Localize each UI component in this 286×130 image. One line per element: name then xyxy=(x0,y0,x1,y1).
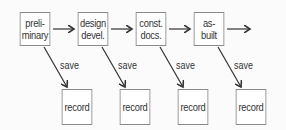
save-label-4: save xyxy=(234,59,253,71)
stage-label-line1: const. xyxy=(139,17,162,29)
stage-label-line2: minary xyxy=(22,29,49,41)
save-label-2: save xyxy=(118,59,137,71)
stage-label-line2: devel. xyxy=(80,29,106,41)
stage-label-line2: docs. xyxy=(139,29,162,41)
stage-label-line1: design xyxy=(80,17,106,29)
record-box-1: record xyxy=(62,89,93,125)
stage-label-line2: built xyxy=(201,29,217,41)
save-label-1: save xyxy=(60,59,79,71)
stage-design-devel: designdevel. xyxy=(78,12,109,46)
stage-const-docs: const.docs. xyxy=(136,12,167,46)
record-label: record xyxy=(65,101,90,113)
record-label: record xyxy=(239,101,264,113)
stage-preliminary: preli-minary xyxy=(20,12,51,46)
record-box-3: record xyxy=(178,89,209,125)
record-label: record xyxy=(123,101,148,113)
save-label-3: save xyxy=(176,59,195,71)
record-box-2: record xyxy=(120,89,151,125)
stage-label-line1: preli- xyxy=(22,17,49,29)
record-box-4: record xyxy=(236,89,267,125)
stage-as-built: as-built xyxy=(194,12,225,46)
record-label: record xyxy=(181,101,206,113)
stage-label-line1: as- xyxy=(201,17,217,29)
